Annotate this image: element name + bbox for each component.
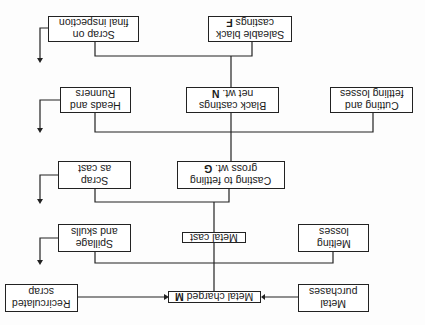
foundry-metal-flow-diagram: Scrap on final inspection Saleable black… [0,0,425,325]
heads-and-runners-node: Heads and Runners [60,87,131,113]
black-castings-node: Black castings net wt. N [186,87,279,113]
recirculated-scrap-node: Recirculated scrap [5,284,78,312]
melting-losses-node: Melting losses [298,224,369,252]
spillage-and-skulls-node: Spillage and skulls [58,224,131,252]
metal-purchases-node: Metal purchases [298,284,369,312]
scrap-as-cast-node: Scrap as cast [58,161,131,189]
castings-to-fettling-node: Casting to fettling gross wt. G [177,161,285,189]
scrap-on-final-inspection-node: Scrap on final inspection [48,16,139,42]
metal-charged-node: Metal charged M [168,291,261,303]
metal-cast-node: Metal cast [182,232,246,243]
saleable-black-castings-node: Saleable black castings F [208,16,292,42]
cutting-and-fettling-losses-node: Cutting and fettling losses [330,87,413,113]
